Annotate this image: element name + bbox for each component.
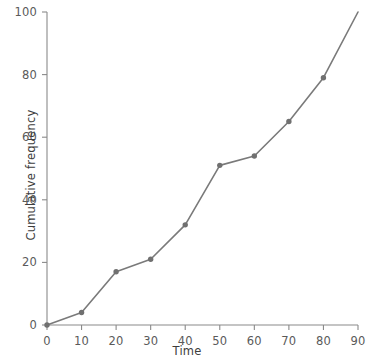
data-point-marker: [44, 322, 49, 327]
chart-axes: [47, 12, 358, 325]
y-axis-tick-label: 100: [0, 5, 37, 19]
x-axis-title: Time: [0, 344, 374, 358]
data-point-markers: [44, 75, 326, 328]
y-axis-tick-label: 0: [0, 318, 37, 332]
data-point-marker: [79, 310, 84, 315]
data-point-marker: [252, 153, 257, 158]
data-point-marker: [321, 75, 326, 80]
cumulative-frequency-chart: 020406080100 0102030405060708090 Time Cu…: [0, 0, 374, 363]
data-point-marker: [217, 163, 222, 168]
chart-plot-area: [0, 0, 374, 363]
data-series-line: [47, 12, 358, 325]
y-axis-title: Cumulative frequency: [24, 80, 38, 270]
data-point-marker: [113, 269, 118, 274]
data-point-marker: [286, 119, 291, 124]
y-axis-ticks: [42, 12, 47, 325]
x-axis-ticks: [47, 325, 358, 330]
data-point-marker: [148, 257, 153, 262]
data-point-marker: [183, 222, 188, 227]
